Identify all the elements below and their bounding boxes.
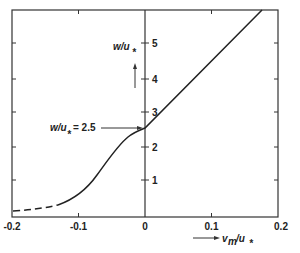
chart: 5 4 3 2 1 -0.2 -0.1 0 0.1 0.2 w/u * w/u … bbox=[0, 0, 300, 253]
annotation-sub: * bbox=[67, 129, 72, 140]
y-axis-label: w/u bbox=[113, 41, 130, 52]
up-arrow-icon bbox=[133, 63, 137, 88]
y-tick-2: 2 bbox=[152, 142, 158, 153]
x-axis-label-rest: /u bbox=[235, 233, 245, 244]
x-tick-0: 0 bbox=[142, 221, 148, 232]
right-arrow-icon bbox=[193, 236, 220, 240]
dashed-curve bbox=[13, 205, 58, 211]
y-tick-5: 5 bbox=[152, 38, 158, 49]
x-tick-neg-0.2: -0.2 bbox=[3, 221, 21, 232]
y-tick-1: 1 bbox=[152, 175, 158, 186]
x-tick-neg-0.1: -0.1 bbox=[70, 221, 88, 232]
y-tick-4: 4 bbox=[152, 74, 158, 85]
x-axis-label-sub: * bbox=[249, 238, 254, 249]
right-arrow-icon bbox=[101, 126, 143, 130]
x-tick-0.2: 0.2 bbox=[274, 221, 288, 232]
y-axis-label-sub: * bbox=[132, 47, 137, 58]
annotation-label: w/u bbox=[50, 122, 67, 133]
solid-curve bbox=[58, 10, 262, 205]
x-tick-0.1: 0.1 bbox=[205, 221, 219, 232]
annotation-value: = 2.5 bbox=[73, 122, 96, 133]
